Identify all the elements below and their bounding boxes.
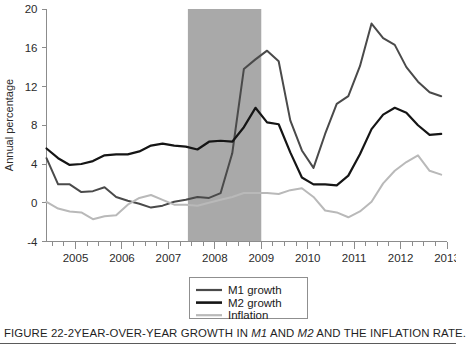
legend-label-m2: M2 growth xyxy=(228,297,282,309)
y-axis-ticks: -4048121620 xyxy=(25,3,47,248)
y-tick-label-16: 16 xyxy=(25,42,38,54)
chart-legend: M1 growthM2 growthInflation xyxy=(190,278,308,322)
x-tick-label-2007: 2007 xyxy=(156,252,182,264)
y-tick-label-8: 8 xyxy=(31,119,37,131)
x-tick-label-2012: 2012 xyxy=(388,252,414,264)
x-axis-ticks: 200520062007200820092010201120122013 xyxy=(52,242,456,264)
figure-title-text: YEAR-OVER-YEAR GROWTH IN M1 AND M2 AND T… xyxy=(74,327,466,339)
y-tick-label--4: -4 xyxy=(27,236,38,248)
figure-title-m1: M1 xyxy=(251,327,267,339)
x-tick-label-2006: 2006 xyxy=(109,252,135,264)
recession-band xyxy=(188,9,261,242)
x-tick-label-2011: 2011 xyxy=(342,252,367,264)
x-tick-label-2009: 2009 xyxy=(248,252,274,264)
chart-canvas: -4048121620 2005200620072008200920102011… xyxy=(0,0,456,322)
x-tick-label-2008: 2008 xyxy=(202,252,228,264)
legend-label-m1: M1 growth xyxy=(228,284,282,296)
figure-title-segment-2: AND xyxy=(267,327,297,339)
x-tick-label-2005: 2005 xyxy=(63,252,89,264)
figure-number: FIGURE 22-2 xyxy=(4,327,74,339)
figure-caption: FIGURE 22-2 YEAR-OVER-YEAR GROWTH IN M1 … xyxy=(0,322,456,344)
x-tick-label-2010: 2010 xyxy=(295,252,321,264)
y-axis-title: Annual percentage xyxy=(3,79,15,171)
figure-title-segment-3: AND THE INFLATION RATE. xyxy=(314,327,466,339)
figure-title-m2: M2 xyxy=(298,327,314,339)
legend-label-inflation: Inflation xyxy=(228,309,268,321)
x-tick-label-2013: 2013 xyxy=(434,252,456,264)
y-tick-label-4: 4 xyxy=(31,158,38,170)
recession-shading-group xyxy=(188,9,261,242)
figure-title-segment-1: YEAR-OVER-YEAR GROWTH IN xyxy=(74,327,251,339)
y-tick-label-20: 20 xyxy=(25,3,38,15)
y-tick-label-0: 0 xyxy=(31,197,37,209)
y-tick-label-12: 12 xyxy=(25,81,38,93)
